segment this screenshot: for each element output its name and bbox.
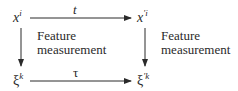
node-sup: i <box>19 8 22 18</box>
label-line-1: Feature <box>37 29 106 43</box>
node-sup: ′i <box>143 8 147 18</box>
edge-label-right: Feature measurement <box>161 29 230 57</box>
node-xi-prime-k: ξ′k <box>137 74 149 88</box>
node-x-prime-i: x′i <box>137 11 148 25</box>
edge-label-t: t <box>73 3 77 16</box>
edge-label-tau: τ <box>73 66 78 79</box>
label-line-2: measurement <box>161 43 230 57</box>
edge-label-left: Feature measurement <box>37 29 106 57</box>
node-sup: k <box>19 71 23 81</box>
node-sup: ′k <box>143 71 149 81</box>
node-x-i: xi <box>13 11 22 25</box>
label-line-2: measurement <box>37 43 106 57</box>
label-line-1: Feature <box>161 29 230 43</box>
node-xi-k: ξk <box>13 74 23 88</box>
